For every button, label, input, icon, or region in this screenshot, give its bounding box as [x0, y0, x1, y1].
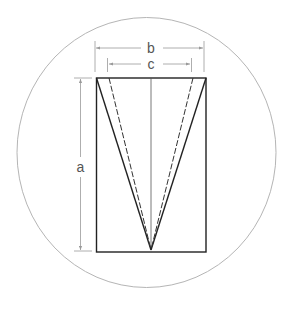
dashed-v-right — [151, 78, 193, 250]
outer-circle — [17, 18, 276, 288]
solid-v-left — [97, 78, 152, 250]
label-a: a — [77, 159, 85, 175]
solid-v-right — [151, 78, 206, 250]
diagram-canvas: b c a — [0, 0, 292, 309]
dimension-c: c — [108, 56, 192, 72]
label-c: c — [148, 56, 155, 72]
dimension-a: a — [74, 78, 92, 251]
label-b: b — [147, 40, 155, 56]
dashed-v-left — [109, 78, 151, 250]
